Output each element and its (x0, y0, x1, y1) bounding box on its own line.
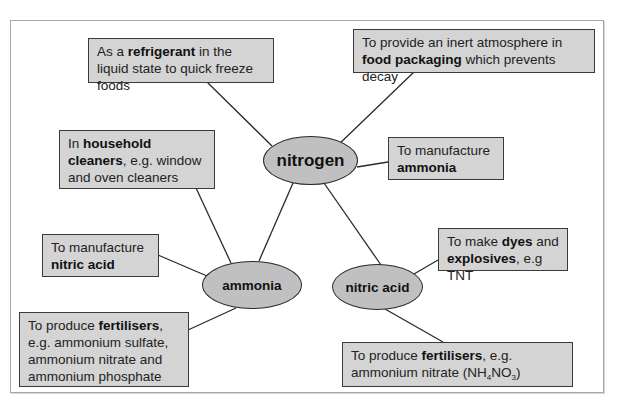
text: To produce (351, 348, 422, 363)
box-fertilisers-nitric: To produce fertilisers, e.g. ammonium ni… (342, 342, 573, 387)
keyword-dyes: dyes (502, 234, 533, 249)
node-ammonia: ammonia (202, 261, 302, 309)
node-nitrogen: nitrogen (263, 136, 358, 185)
edge-ammonia-nitric-acid (158, 255, 207, 276)
text: To manufacture (51, 240, 144, 255)
keyword-fertilisers: fertilisers (422, 348, 483, 363)
formula-part: ) (516, 365, 521, 380)
text: To make (447, 234, 502, 249)
edge-nitrogen-refrigerant (207, 82, 272, 146)
text: and (533, 234, 559, 249)
box-fertilisers-ammonia: To produce fertilisers, e.g. ammonium su… (19, 312, 189, 387)
keyword-explosives: explosives (447, 251, 516, 266)
edge-ammonia-household (196, 188, 231, 263)
box-manufacture-nitric-acid: To manufacture nitric acid (42, 234, 159, 277)
text: To provide an inert atmosphere in (362, 35, 562, 50)
edge-nitric-dyes (414, 260, 438, 274)
edge-nitrogen-nitric-acid (324, 183, 381, 265)
box-food-packaging: To provide an inert atmosphere in food p… (353, 29, 595, 73)
box-dyes-explosives: To make dyes and explosives, e.g TNT (438, 228, 568, 271)
edge-nitrogen-manufacture-ammonia (357, 162, 388, 167)
keyword-nitric-acid: nitric acid (51, 257, 115, 272)
keyword-fertilisers: fertilisers (99, 318, 160, 333)
text: To manufacture (397, 143, 490, 158)
box-manufacture-ammonia: To manufacture ammonia (388, 137, 504, 180)
keyword-refrigerant: refrigerant (128, 44, 196, 59)
node-label: ammonia (222, 278, 281, 293)
box-household-cleaners: In household cleaners, e.g. window and o… (59, 130, 215, 189)
text: In (68, 136, 83, 151)
text: To produce (28, 318, 99, 333)
edge-nitrogen-ammonia (259, 183, 293, 261)
keyword-food-packaging: food packaging (362, 52, 462, 67)
node-nitric-acid: nitric acid (332, 264, 423, 310)
node-label: nitrogen (277, 151, 345, 171)
edge-ammonia-fertilisers (188, 308, 236, 330)
box-refrigerant: As a refrigerant in the liquid state to … (88, 38, 274, 83)
node-label: nitric acid (346, 280, 410, 295)
edge-nitric-fertilisers (385, 309, 443, 342)
text: As a (97, 44, 128, 59)
formula-part: NO (491, 365, 511, 380)
keyword-ammonia: ammonia (397, 160, 456, 175)
formula-part: NH (467, 365, 487, 380)
